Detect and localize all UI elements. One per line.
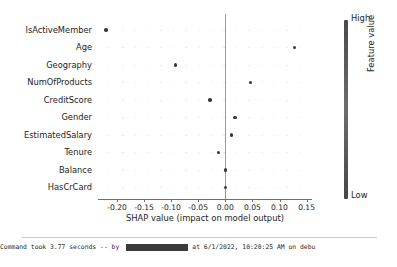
redacted-username-block — [126, 244, 188, 251]
feature-label-creditscore: CreditScore — [2, 96, 92, 105]
shap-summary-plot-figure: SHAP value (impact on model output) High… — [0, 0, 397, 236]
feature-label-tenure: Tenure — [2, 148, 92, 157]
feature-label-geography: Geography — [2, 61, 92, 70]
x-tick-mark — [252, 199, 253, 202]
feature-label-estimatedsalary: EstimatedSalary — [2, 131, 92, 140]
x-tick-mark — [198, 199, 199, 202]
colorbar-low-label: Low — [351, 190, 368, 200]
scatter-row-density — [100, 134, 310, 137]
feature-label-gender: Gender — [2, 113, 92, 122]
x-tick-mark — [171, 199, 172, 202]
scatter-row-density — [100, 151, 310, 154]
status-command-duration: Command took 3.77 seconds -- by — [0, 243, 119, 251]
colorbar-title: Feature value — [366, 15, 376, 72]
notebook-status-bar: Command took 3.77 seconds -- by at 6/1/2… — [0, 240, 397, 254]
colorbar-gradient — [344, 20, 348, 199]
x-tick-mark — [117, 199, 118, 202]
x-tick-label: 0.15 — [287, 203, 327, 212]
scatter-row-density — [100, 169, 310, 172]
feature-label-isactivemember: IsActiveMember — [2, 26, 92, 35]
x-tick-mark — [225, 199, 226, 202]
scatter-point — [174, 63, 177, 66]
x-tick-mark — [280, 199, 281, 202]
x-tick-mark — [144, 199, 145, 202]
scatter-point — [233, 116, 236, 119]
scatter-point — [230, 133, 233, 136]
x-axis-title: SHAP value (impact on model output) — [98, 213, 312, 223]
scatter-row-density — [100, 64, 310, 67]
feature-value-colorbar: High Low Feature value — [344, 10, 397, 210]
scatter-row-density — [100, 29, 310, 32]
scatter-row-density — [100, 99, 310, 102]
scatter-point — [104, 28, 107, 31]
feature-label-hascrcard: HasCrCard — [2, 183, 92, 192]
status-divider — [22, 237, 377, 238]
feature-label-numofproducts: NumOfProducts — [2, 78, 92, 87]
plot-area — [98, 14, 312, 199]
feature-label-age: Age — [2, 43, 92, 52]
scatter-row-density — [100, 186, 310, 189]
scatter-row-density — [100, 116, 310, 119]
feature-label-balance: Balance — [2, 166, 92, 175]
scatter-point — [224, 168, 227, 171]
scatter-row-density — [100, 46, 310, 49]
scatter-point — [208, 98, 211, 101]
status-timestamp: at 6/1/2022, 10:20:25 AM on debu — [192, 243, 315, 251]
x-tick-mark — [307, 199, 308, 202]
scatter-row-density — [100, 81, 310, 84]
